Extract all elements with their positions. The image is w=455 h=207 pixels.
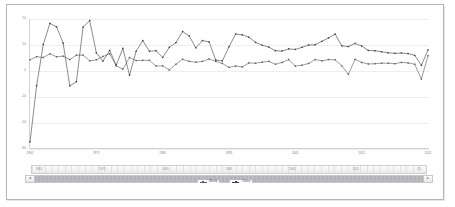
range-tick	[275, 166, 276, 173]
legend-item[interactable]: World	[198, 180, 220, 183]
data-point-marker	[69, 85, 70, 86]
data-point-marker	[29, 59, 30, 60]
data-point-marker	[43, 57, 44, 58]
data-point-marker	[49, 53, 50, 54]
range-slider-label: 2001	[289, 168, 296, 171]
x-axis-tick-label: 2021	[425, 152, 432, 155]
data-point-marker	[308, 63, 309, 64]
data-point-marker	[427, 55, 428, 56]
data-point-marker	[162, 57, 163, 58]
x-axis-tick-label: 2001	[292, 152, 299, 155]
range-tick	[65, 166, 66, 173]
range-tick	[196, 166, 197, 173]
range-tick	[400, 166, 401, 173]
range-tick	[71, 166, 72, 173]
range-tick	[170, 166, 171, 173]
range-slider-label: 2011	[352, 168, 358, 171]
data-point-marker	[155, 50, 156, 51]
range-slider-track[interactable]: 19611971198119912001201121	[31, 165, 427, 174]
range-tick	[282, 166, 283, 173]
data-point-marker	[321, 60, 322, 61]
range-tick	[393, 166, 394, 173]
data-point-marker	[142, 40, 143, 41]
data-point-marker	[89, 60, 90, 61]
data-point-marker	[208, 58, 209, 59]
data-point-marker	[62, 55, 63, 56]
y-axis-tick-label: -20	[21, 121, 26, 124]
data-point-marker	[195, 47, 196, 48]
data-point-marker	[368, 50, 369, 51]
data-point-marker	[242, 34, 243, 35]
data-point-marker	[295, 49, 296, 50]
data-point-marker	[109, 50, 110, 51]
data-point-marker	[275, 50, 276, 51]
data-point-marker	[414, 64, 415, 65]
y-axis-tick-label: 10	[22, 43, 26, 46]
data-point-marker	[321, 41, 322, 42]
data-point-marker	[288, 59, 289, 60]
range-tick	[367, 166, 368, 173]
data-point-marker	[62, 42, 63, 43]
range-tick	[347, 166, 348, 173]
data-point-marker	[374, 63, 375, 64]
legend-swatch-icon	[200, 182, 207, 183]
data-point-marker	[341, 45, 342, 46]
range-slider-label: 1991	[226, 168, 233, 171]
range-tick	[242, 166, 243, 173]
range-tick	[32, 166, 33, 173]
data-point-marker	[341, 65, 342, 66]
range-tick	[314, 166, 315, 173]
data-point-marker	[354, 43, 355, 44]
data-point-marker	[354, 59, 355, 60]
data-point-marker	[407, 53, 408, 54]
range-tick	[52, 166, 53, 173]
y-axis-tick-label: -30	[21, 147, 26, 150]
range-tick	[262, 166, 263, 173]
data-point-marker	[82, 54, 83, 55]
data-point-marker	[36, 85, 37, 86]
range-slider-label: 1971	[99, 168, 106, 171]
data-point-marker	[235, 33, 236, 34]
range-tick	[387, 166, 388, 173]
data-point-marker	[162, 65, 163, 66]
data-point-marker	[361, 62, 362, 63]
y-axis-tick-label: 0	[24, 69, 26, 72]
range-tick	[301, 166, 302, 173]
range-tick	[183, 166, 184, 173]
range-tick	[360, 166, 361, 173]
series-line-china	[30, 21, 428, 142]
range-tick	[236, 166, 237, 173]
data-point-marker	[56, 26, 57, 27]
data-point-marker	[248, 37, 249, 38]
range-tick	[209, 166, 210, 173]
data-point-marker	[189, 35, 190, 36]
range-tick	[268, 166, 269, 173]
range-tick	[111, 166, 112, 173]
data-point-marker	[135, 60, 136, 61]
data-point-marker	[76, 81, 77, 82]
data-point-marker	[215, 59, 216, 60]
data-point-marker	[248, 62, 249, 63]
legend-item[interactable]: China	[230, 180, 252, 183]
data-point-marker	[315, 59, 316, 60]
data-point-marker	[414, 55, 415, 56]
data-point-marker	[182, 31, 183, 32]
range-tick	[85, 166, 86, 173]
data-point-marker	[301, 65, 302, 66]
data-point-marker	[89, 20, 90, 21]
data-point-marker	[328, 37, 329, 38]
data-point-marker	[427, 49, 428, 50]
data-point-marker	[202, 40, 203, 41]
data-point-marker	[295, 65, 296, 66]
range-slider-label: 1981	[162, 168, 169, 171]
data-point-marker	[189, 61, 190, 62]
range-tick	[203, 166, 204, 173]
range-tick	[176, 166, 177, 173]
data-point-marker	[182, 59, 183, 60]
range-tick	[137, 166, 138, 173]
data-point-marker	[315, 44, 316, 45]
data-point-marker	[261, 45, 262, 46]
data-point-marker	[222, 60, 223, 61]
data-point-marker	[43, 44, 44, 45]
range-slider-label: 21	[417, 168, 420, 171]
